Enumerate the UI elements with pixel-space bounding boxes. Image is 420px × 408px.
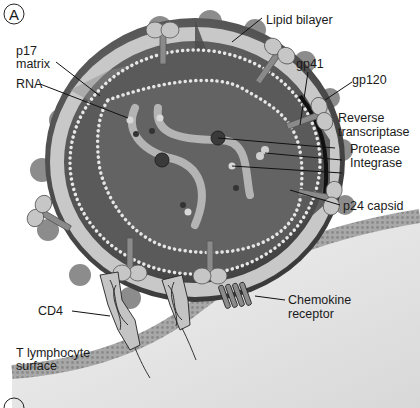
- label-integrase: Integrase: [350, 156, 402, 170]
- hiv-virion-diagram: A Lipid bilayer p17 matrix RNA gp41 gp12…: [0, 0, 420, 408]
- label-reverse-transcriptase-line1: Reverse: [338, 111, 385, 125]
- label-lipid-bilayer: Lipid bilayer: [266, 13, 333, 27]
- label-p17-line2: matrix: [16, 57, 51, 71]
- svg-text:A: A: [9, 6, 19, 23]
- label-p17-line1: p17: [16, 44, 37, 58]
- label-p24-capsid: p24 capsid: [343, 199, 404, 213]
- label-chemokine-line2: receptor: [288, 307, 334, 321]
- panel-label-a: A: [4, 4, 24, 24]
- label-t-lymphocyte-line1: T lymphocyte: [16, 346, 90, 360]
- label-t-lymphocyte-line2: surface: [16, 359, 57, 373]
- label-reverse-transcriptase-line2: transcriptase: [338, 125, 410, 139]
- label-cd4: CD4: [38, 304, 63, 318]
- label-protease: Protease: [350, 142, 400, 156]
- label-rna: RNA: [16, 77, 43, 91]
- label-chemokine-line1: Chemokine: [288, 293, 351, 307]
- label-gp120: gp120: [352, 73, 387, 87]
- label-gp41: gp41: [296, 57, 324, 71]
